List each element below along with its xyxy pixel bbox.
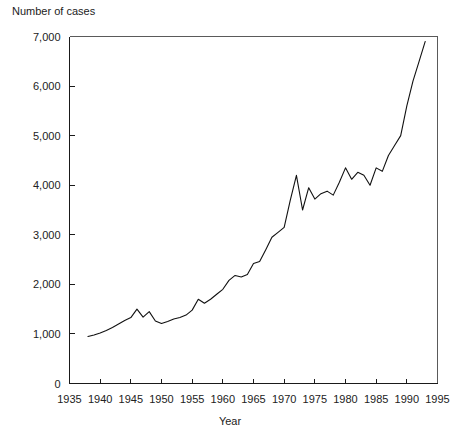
data-series-line <box>88 41 425 336</box>
y-tick-label: 7,000 <box>33 31 61 43</box>
y-tick-label: 4,000 <box>33 179 61 191</box>
x-tick-label: 1980 <box>333 393 357 405</box>
x-tick-label: 1985 <box>364 393 388 405</box>
x-tick-label: 1990 <box>395 393 419 405</box>
x-tick-label: 1955 <box>180 393 204 405</box>
x-tick-label: 1960 <box>211 393 235 405</box>
y-tick-label: 1,000 <box>33 328 61 340</box>
line-chart-plot: 01,0002,0003,0004,0005,0006,0007,000 193… <box>0 0 460 439</box>
x-tick-label: 1935 <box>57 393 81 405</box>
x-axis-tick-marks <box>100 379 407 384</box>
y-axis-tick-marks <box>70 86 75 334</box>
x-tick-label: 1945 <box>119 393 143 405</box>
plot-axes <box>70 37 438 384</box>
x-tick-label: 1970 <box>272 393 296 405</box>
x-tick-label: 1975 <box>303 393 327 405</box>
y-tick-label: 2,000 <box>33 278 61 290</box>
y-tick-label: 5,000 <box>33 130 61 142</box>
x-tick-label: 1940 <box>88 393 112 405</box>
y-tick-label: 3,000 <box>33 229 61 241</box>
y-axis-tick-labels: 01,0002,0003,0004,0005,0006,0007,000 <box>33 31 61 390</box>
plot-frame <box>70 37 438 384</box>
x-axis-label: Year <box>0 415 460 427</box>
x-tick-label: 1965 <box>241 393 265 405</box>
y-tick-label: 0 <box>54 378 60 390</box>
y-tick-label: 6,000 <box>33 80 61 92</box>
chart-figure: Number of cases 01,0002,0003,0004,0005,0… <box>0 0 460 439</box>
plot-frame-border <box>70 37 438 384</box>
x-tick-label: 1950 <box>149 393 173 405</box>
x-axis-tick-labels: 1935194019451950195519601965197019751980… <box>57 393 449 405</box>
x-tick-label: 1995 <box>425 393 449 405</box>
